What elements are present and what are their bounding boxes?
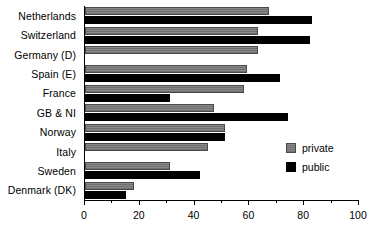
- bar-private: [85, 143, 208, 151]
- category-label: Germany (D): [14, 49, 76, 61]
- bar-public: [85, 94, 170, 102]
- legend-item-private: private: [286, 142, 334, 153]
- category-label: Netherlands: [18, 10, 76, 22]
- x-tick-label: 20: [133, 209, 145, 221]
- chart-legend: privatepublic: [286, 142, 334, 180]
- legend-label: private: [302, 142, 334, 154]
- x-tick-major: [358, 200, 359, 205]
- x-tick-minor: [111, 200, 112, 203]
- bar-public: [85, 74, 280, 82]
- category-label: Norway: [40, 126, 76, 138]
- bar-private: [85, 65, 247, 73]
- x-tick-major: [84, 200, 85, 205]
- x-tick-major: [194, 200, 195, 205]
- bar-public: [85, 191, 126, 199]
- x-tick-label: 80: [297, 209, 309, 221]
- x-tick-major: [248, 200, 249, 205]
- bar-public: [85, 171, 200, 179]
- bar-public: [85, 133, 225, 141]
- x-tick-label: 60: [243, 209, 255, 221]
- x-tick-minor: [276, 200, 277, 203]
- legend-swatch-private: [286, 143, 296, 153]
- bar-private: [85, 27, 258, 35]
- bar-private: [85, 7, 269, 15]
- category-label: Denmark (DK): [8, 184, 76, 196]
- bar-private: [85, 124, 225, 132]
- bar-public: [85, 113, 288, 121]
- x-tick-major: [303, 200, 304, 205]
- legend-swatch-public: [286, 162, 296, 172]
- category-label: France: [43, 87, 76, 99]
- bar-private: [85, 85, 244, 93]
- category-label: Spain (E): [31, 68, 76, 80]
- x-tick-minor: [166, 200, 167, 203]
- category-label: Sweden: [37, 165, 76, 177]
- category-label: Italy: [56, 146, 76, 158]
- bar-private: [85, 182, 134, 190]
- category-axis-labels: NetherlandsSwitzerlandGermany (D)Spain (…: [0, 6, 80, 200]
- bar-public: [85, 16, 312, 24]
- bar-public: [85, 36, 310, 44]
- legend-label: public: [302, 161, 329, 173]
- bar-private: [85, 162, 170, 170]
- x-tick-major: [139, 200, 140, 205]
- legend-item-public: public: [286, 161, 334, 172]
- x-tick-label: 0: [81, 209, 87, 221]
- x-tick-label: 100: [349, 209, 367, 221]
- bar-private: [85, 46, 258, 54]
- bar-chart: NetherlandsSwitzerlandGermany (D)Spain (…: [0, 0, 374, 237]
- bar-private: [85, 104, 214, 112]
- x-tick-minor: [331, 200, 332, 203]
- category-label: GB & NI: [37, 107, 76, 119]
- category-label: Switzerland: [21, 29, 76, 41]
- x-tick-label: 40: [188, 209, 200, 221]
- x-tick-minor: [221, 200, 222, 203]
